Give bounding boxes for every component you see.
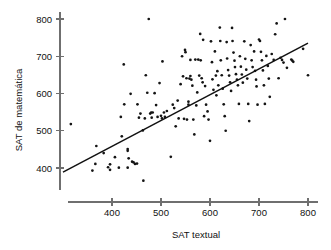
data-point: [119, 116, 122, 119]
data-point: [215, 94, 218, 97]
data-point: [153, 92, 156, 95]
data-point: [126, 166, 129, 169]
data-point: [69, 123, 72, 126]
data-point: [94, 163, 97, 166]
data-point: [122, 63, 125, 66]
data-point: [262, 69, 265, 72]
data-point: [191, 84, 194, 87]
y-tick-label: 500: [36, 125, 52, 136]
data-point: [187, 100, 190, 103]
data-points-layer: [69, 18, 309, 182]
data-point: [144, 74, 147, 77]
data-point: [171, 103, 174, 106]
data-point: [136, 103, 139, 106]
data-point: [196, 91, 199, 94]
y-tick-label: 700: [36, 51, 52, 62]
data-point: [138, 116, 141, 119]
data-point: [204, 85, 207, 88]
data-point: [261, 59, 264, 62]
data-point: [284, 18, 287, 21]
data-point: [286, 66, 289, 69]
data-point: [205, 103, 208, 106]
data-point: [263, 84, 266, 87]
data-point: [234, 66, 237, 69]
x-tick-label: 600: [202, 207, 218, 218]
data-point: [201, 81, 204, 84]
data-point: [202, 39, 205, 42]
data-point: [282, 61, 285, 64]
scatter-plot-figure: 400500600700800 400500600700800 SAT text…: [0, 0, 331, 250]
data-point: [241, 81, 244, 84]
data-point: [151, 111, 154, 114]
data-point: [219, 40, 222, 43]
data-point: [197, 58, 200, 61]
data-point: [245, 68, 248, 71]
data-point: [230, 90, 233, 93]
data-point: [107, 166, 110, 169]
data-point: [156, 116, 159, 119]
y-tick-label: 400: [36, 163, 52, 174]
regression-line: [63, 43, 308, 172]
x-axis-title: SAT textual: [172, 229, 220, 240]
data-point: [155, 104, 158, 107]
data-point: [260, 50, 263, 53]
data-point: [179, 83, 182, 86]
y-tick-label: 600: [36, 88, 52, 99]
data-point: [212, 88, 215, 91]
data-point: [169, 155, 172, 158]
data-point: [163, 111, 166, 114]
data-point: [203, 115, 206, 118]
data-point: [146, 91, 149, 94]
x-axis: 400500600700800: [68, 198, 318, 218]
x-tick-label: 800: [300, 207, 316, 218]
data-point: [174, 125, 177, 128]
data-point: [243, 40, 246, 43]
data-point: [219, 59, 222, 62]
data-point: [189, 59, 192, 62]
data-point: [274, 33, 277, 36]
data-point: [277, 77, 280, 80]
data-point: [150, 116, 153, 119]
data-point: [264, 103, 267, 106]
data-point: [185, 77, 188, 80]
data-point: [292, 60, 295, 63]
data-point: [109, 169, 112, 172]
data-point: [241, 73, 244, 76]
data-point: [199, 59, 202, 62]
data-point: [210, 40, 213, 43]
data-point: [194, 58, 197, 61]
data-point: [181, 55, 184, 58]
data-point: [218, 26, 221, 29]
data-point: [255, 85, 258, 88]
data-point: [160, 115, 163, 118]
data-point: [238, 103, 241, 106]
data-point: [182, 75, 185, 78]
data-point: [270, 53, 273, 56]
data-point: [184, 51, 187, 54]
data-point: [259, 40, 262, 43]
data-point: [102, 152, 105, 155]
data-point: [249, 44, 252, 47]
data-point: [184, 49, 187, 52]
data-point: [186, 118, 189, 121]
data-point: [190, 78, 193, 81]
data-point: [237, 84, 240, 87]
data-point: [166, 110, 169, 113]
data-point: [198, 74, 201, 77]
data-point: [267, 77, 270, 80]
data-point: [247, 103, 250, 106]
data-point: [206, 110, 209, 113]
data-point: [235, 73, 238, 76]
data-point: [118, 166, 121, 169]
data-point: [158, 82, 161, 85]
data-point: [226, 57, 229, 60]
data-point: [126, 150, 129, 153]
data-point: [209, 139, 212, 142]
data-point: [302, 47, 305, 50]
data-point: [223, 115, 226, 118]
data-point: [214, 50, 217, 53]
data-point: [246, 77, 249, 80]
data-point: [127, 157, 130, 160]
data-point: [139, 112, 142, 115]
data-point: [232, 51, 235, 54]
